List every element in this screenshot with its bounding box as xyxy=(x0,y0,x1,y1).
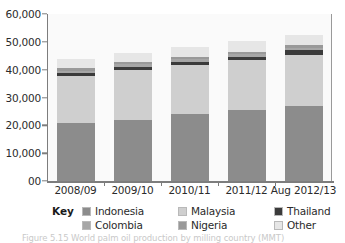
bar-segment-malaysia xyxy=(285,55,323,106)
bar-segment-other xyxy=(285,35,323,46)
y-axis-tick-label: 40,000 xyxy=(0,64,47,76)
stacked-bar[interactable] xyxy=(285,35,323,181)
legend-item-malaysia[interactable]: Malaysia xyxy=(178,205,274,217)
legend-swatch-thailand xyxy=(274,207,283,216)
bar-slot xyxy=(47,14,104,181)
bar-segment-indonesia xyxy=(114,120,152,181)
y-axis-tick-mark xyxy=(42,152,47,153)
x-axis-tick-label: 2008/09 xyxy=(54,184,96,196)
legend-item-indonesia[interactable]: Indonesia xyxy=(82,205,178,217)
legend-label-thailand: Thailand xyxy=(287,205,331,217)
x-axis-tick-mark xyxy=(218,181,219,186)
legend-swatch-malaysia xyxy=(178,207,187,216)
bar-segment-indonesia xyxy=(57,123,95,181)
y-axis-tick-label: 50,000 xyxy=(0,36,47,48)
x-axis-tick-mark xyxy=(161,181,162,186)
legend-item-colombia[interactable]: Colombia xyxy=(82,219,178,231)
bar-segment-malaysia xyxy=(57,76,95,124)
legend-label-nigeria: Nigeria xyxy=(191,219,227,231)
legend-swatch-indonesia xyxy=(82,207,91,216)
y-axis-tick-label: 10,000 xyxy=(0,147,47,159)
bar-slot xyxy=(275,14,332,181)
legend-swatch-colombia xyxy=(82,221,91,230)
x-axis-tick-label: 2011/12 xyxy=(225,184,267,196)
bar-segment-malaysia xyxy=(171,65,209,115)
y-axis-tick-label: 30,000 xyxy=(0,92,47,104)
bar-segment-malaysia xyxy=(228,60,266,110)
legend-label-indonesia: Indonesia xyxy=(95,205,144,217)
y-axis-tick-label: 00 xyxy=(0,175,47,187)
legend-label-colombia: Colombia xyxy=(95,219,143,231)
x-axis-tick-label: 2010/11 xyxy=(168,184,210,196)
legend-label-malaysia: Malaysia xyxy=(191,205,235,217)
y-axis-tick-label: 60,000 xyxy=(0,8,47,20)
legend-key-label: Key xyxy=(52,205,82,217)
y-axis-tick-mark xyxy=(42,97,47,98)
bar-segment-indonesia xyxy=(285,106,323,181)
stacked-bar[interactable] xyxy=(171,47,209,181)
legend-label-other: Other xyxy=(287,219,316,231)
bar-series-group xyxy=(47,14,332,181)
stacked-bar[interactable] xyxy=(114,53,152,181)
bar-slot xyxy=(104,14,161,181)
bar-slot xyxy=(218,14,275,181)
bar-slot xyxy=(161,14,218,181)
legend-item-other[interactable]: Other xyxy=(274,219,316,231)
legend-row: Key Colombia Nigeria Other xyxy=(52,219,320,231)
legend-swatch-other xyxy=(274,221,283,230)
y-axis-tick-mark xyxy=(42,125,47,126)
y-axis-tick-mark xyxy=(42,69,47,70)
legend-item-nigeria[interactable]: Nigeria xyxy=(178,219,274,231)
bar-segment-other xyxy=(114,53,152,62)
x-axis-tick-mark xyxy=(275,181,276,186)
x-axis-tick-label: Aug 2012/13 xyxy=(271,184,336,196)
y-axis-tick-label: 20,000 xyxy=(0,119,47,131)
bar-segment-indonesia xyxy=(228,110,266,181)
x-axis-tick-mark xyxy=(104,181,105,186)
stacked-bar[interactable] xyxy=(57,59,95,181)
bar-segment-malaysia xyxy=(114,70,152,120)
legend-swatch-nigeria xyxy=(178,221,187,230)
bar-segment-other xyxy=(57,59,95,69)
chart-legend: Key Indonesia Malaysia Thailand Key Colo… xyxy=(52,205,320,233)
legend-row: Key Indonesia Malaysia Thailand xyxy=(52,205,320,217)
figure-caption: Figure 5.15 World palm oil production by… xyxy=(22,233,342,243)
bar-segment-other xyxy=(228,41,266,52)
y-axis-tick-mark xyxy=(42,41,47,42)
plot-wrapper xyxy=(47,14,332,181)
x-axis-line xyxy=(47,181,334,183)
y-axis-tick-mark xyxy=(42,13,47,14)
bar-segment-indonesia xyxy=(171,114,209,181)
legend-item-thailand[interactable]: Thailand xyxy=(274,205,331,217)
stacked-bar[interactable] xyxy=(228,41,266,181)
x-axis-tick-label: 2009/10 xyxy=(111,184,153,196)
bar-segment-other xyxy=(171,47,209,57)
